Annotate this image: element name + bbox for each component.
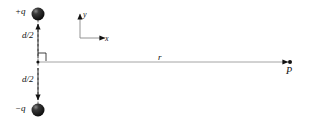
half-separation-upper-label: d/2 [22,31,34,40]
diagram-canvas [0,0,311,125]
dipole-diagram: +q −q d/2 d/2 y x r P [0,0,311,125]
distance-label: r [158,53,162,62]
positive-charge-label: +q [15,7,26,16]
y-axis-label: y [83,11,87,19]
half-separation-lower-label: d/2 [22,75,34,84]
x-axis-label: x [105,35,109,43]
positive-charge-sphere [32,8,45,21]
field-point-label: P [286,66,292,76]
negative-charge-label: −q [15,104,26,113]
field-point-marker [288,60,292,64]
negative-charge-sphere [32,104,45,117]
